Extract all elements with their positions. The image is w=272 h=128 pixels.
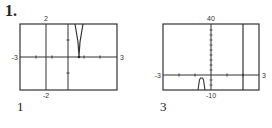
graph-3-ymin-label: -10 [206, 92, 216, 99]
graph-3-xmax-label: 3 [262, 72, 266, 79]
graph-3-caption: 3 [160, 99, 167, 115]
graph-1-ymin-label: -2 [43, 92, 49, 99]
graph-1-curve [75, 24, 83, 56]
graph-3-curve-left [198, 78, 205, 90]
graph-1-xmin-label: -3 [12, 54, 18, 61]
graph-1: 2 -2 -3 3 [12, 15, 124, 99]
graphs-canvas: 2 -2 -3 3 40 [0, 0, 272, 128]
graph-3: 40 -10 -3 3 [155, 15, 266, 99]
graph-3-ymax-label: 40 [207, 15, 215, 22]
graph-1-xmax-label: 3 [120, 54, 124, 61]
graph-1-ymax-label: 2 [44, 15, 48, 22]
graph-1-caption: 1 [17, 99, 24, 115]
graph-3-xmin-label: -3 [155, 72, 161, 79]
graph-1-vertex-dot [78, 56, 81, 59]
